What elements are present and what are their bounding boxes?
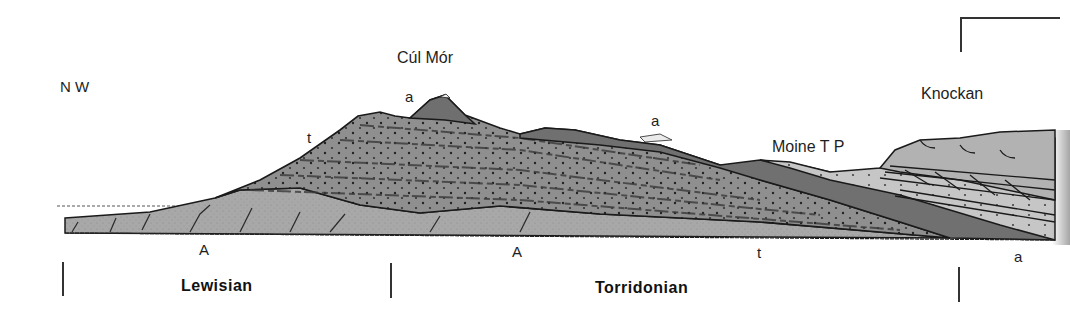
unit-divider-middle xyxy=(390,263,392,298)
right-edge-shadow xyxy=(1052,130,1070,245)
unit-divider-left xyxy=(62,262,64,296)
corner-bracket xyxy=(961,18,1060,52)
peak-label-cul-mor: Cúl Mór xyxy=(397,49,453,67)
unit-divider-right xyxy=(958,267,960,302)
unit-label-lewisian: Lewisian xyxy=(181,277,253,295)
symbol-t-slope: t xyxy=(307,129,311,146)
symbol-a-ridge: a xyxy=(651,112,659,129)
symbol-A-left: A xyxy=(199,241,209,258)
unit-label-torridonian: Torridonian xyxy=(595,279,688,297)
peak-label-knockan: Knockan xyxy=(921,85,983,103)
symbol-a-summit: a xyxy=(405,88,413,105)
moine-thrust-label: Moine T P xyxy=(772,138,844,156)
cross-section-drawing xyxy=(0,0,1070,326)
symbol-t-base: t xyxy=(757,244,761,261)
symbol-A-center: A xyxy=(512,243,522,260)
symbol-a-right: a xyxy=(1014,248,1022,265)
orientation-label: N W xyxy=(60,78,89,95)
